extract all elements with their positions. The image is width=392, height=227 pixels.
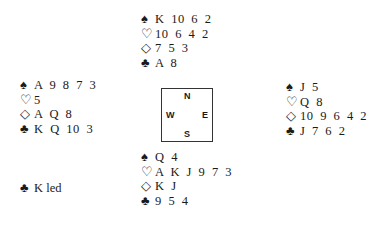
compass-north: N: [184, 91, 191, 101]
east-diamonds: ◇ 10 9 6 4 2: [286, 109, 367, 124]
east-clubs: ♣ J 7 6 2: [286, 124, 367, 139]
north-hand: ♠ K 10 6 2 ♡ 10 6 4 2 ◇ 7 5 3 ♣ A 8: [141, 12, 211, 70]
club-icon: ♣: [141, 56, 155, 71]
cards: Q 4: [155, 150, 178, 165]
east-hand: ♠ J 5 ♡ Q 8 ◇ 10 9 6 4 2 ♣ J 7 6 2: [286, 80, 367, 138]
south-spades: ♠ Q 4: [141, 150, 232, 165]
cards: K 10 6 2: [155, 12, 211, 27]
north-spades: ♠ K 10 6 2: [141, 12, 211, 27]
west-hand: ♠ A 9 8 7 3 ♡ 5 ◇ A Q 8 ♣ K Q 10 3: [20, 78, 96, 136]
heart-icon: ♡: [141, 27, 155, 42]
south-hand: ♠ Q 4 ♡ A K J 9 7 3 ◇ K J ♣ 9 5 4: [141, 150, 232, 208]
cards: J 5: [300, 80, 319, 95]
spade-icon: ♠: [20, 78, 34, 93]
north-clubs: ♣ A 8: [141, 56, 211, 71]
cards: 10 9 6 4 2: [300, 109, 367, 124]
opening-lead: ♣ K led: [20, 180, 61, 196]
heart-icon: ♡: [20, 93, 34, 108]
west-hearts: ♡ 5: [20, 93, 96, 108]
diamond-icon: ◇: [141, 41, 155, 56]
west-diamonds: ◇ A Q 8: [20, 107, 96, 122]
lead-text: K led: [34, 181, 61, 196]
club-icon: ♣: [20, 122, 34, 137]
diamond-icon: ◇: [286, 109, 300, 124]
east-hearts: ♡ Q 8: [286, 95, 367, 110]
club-icon: ♣: [286, 124, 300, 139]
south-clubs: ♣ 9 5 4: [141, 194, 232, 209]
cards: A 9 8 7 3: [34, 78, 96, 93]
cards: 5: [34, 93, 41, 108]
club-icon: ♣: [141, 194, 155, 209]
cards: Q 8: [300, 95, 323, 110]
east-spades: ♠ J 5: [286, 80, 367, 95]
north-hearts: ♡ 10 6 4 2: [141, 27, 211, 42]
diamond-icon: ◇: [20, 107, 34, 122]
club-icon: ♣: [20, 180, 34, 196]
cards: 7 5 3: [155, 41, 189, 56]
compass-west: W: [166, 110, 175, 120]
compass-box: N W E S: [161, 88, 213, 142]
spade-icon: ♠: [141, 12, 155, 27]
south-diamonds: ◇ K J: [141, 179, 232, 194]
north-diamonds: ◇ 7 5 3: [141, 41, 211, 56]
diamond-icon: ◇: [141, 179, 155, 194]
heart-icon: ♡: [141, 165, 155, 180]
compass-south: S: [184, 129, 190, 139]
heart-icon: ♡: [286, 95, 300, 110]
south-hearts: ♡ A K J 9 7 3: [141, 165, 232, 180]
cards: A 8: [155, 56, 177, 71]
cards: K J: [155, 179, 177, 194]
cards: K Q 10 3: [34, 122, 93, 137]
cards: J 7 6 2: [300, 124, 346, 139]
spade-icon: ♠: [286, 80, 300, 95]
west-clubs: ♣ K Q 10 3: [20, 122, 96, 137]
cards: A Q 8: [34, 107, 72, 122]
west-spades: ♠ A 9 8 7 3: [20, 78, 96, 93]
compass-east: E: [202, 110, 208, 120]
cards: 9 5 4: [155, 194, 189, 209]
spade-icon: ♠: [141, 150, 155, 165]
cards: A K J 9 7 3: [155, 165, 232, 180]
cards: 10 6 4 2: [155, 27, 209, 42]
